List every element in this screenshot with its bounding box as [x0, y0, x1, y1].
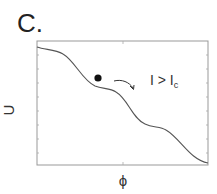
plot-frame	[37, 41, 208, 165]
panel-label: C.	[17, 8, 43, 38]
potential-curve	[37, 47, 208, 163]
y-ticks	[37, 41, 208, 165]
current-annotation: I > Ic	[150, 72, 179, 90]
x-axis-label: ϕ	[119, 172, 127, 189]
chart: C. I > Ic ϕ U	[0, 0, 217, 194]
particle-marker	[94, 74, 101, 81]
motion-arrow	[114, 80, 133, 88]
y-axis-label: U	[0, 105, 17, 116]
